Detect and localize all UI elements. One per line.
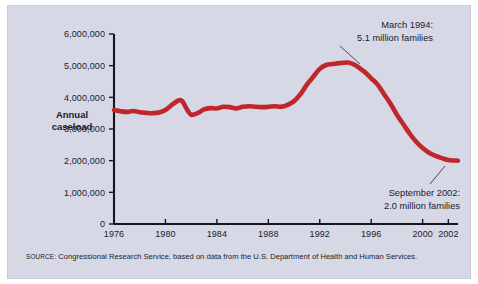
x-tick-label: 1980	[155, 229, 175, 239]
source-label: SOURCE:	[26, 253, 56, 260]
y-axis-title: Annual caseload	[52, 109, 93, 132]
y-axis-title-line1: Annual	[56, 109, 88, 120]
x-tick-label: 1992	[310, 229, 330, 239]
x-tick-label: 1996	[361, 229, 381, 239]
chart-svg: 01,000,0002,000,0003,000,0004,000,0005,0…	[8, 6, 470, 278]
x-tick-label: 2000	[412, 229, 432, 239]
annotation-peak-line1: March 1994:	[381, 20, 433, 30]
x-tick-label: 1984	[207, 229, 227, 239]
y-tick-label: 0	[100, 219, 105, 229]
figure-panel: 01,000,0002,000,0003,000,0004,000,0005,0…	[8, 6, 470, 278]
y-axis-title-line2: caseload	[52, 121, 93, 132]
y-tick-label: 1,000,000	[64, 188, 105, 198]
source-note: SOURCE: Congressional Research Service, …	[26, 252, 464, 263]
x-tick-label: 2002	[438, 229, 458, 239]
x-tick-labels: 19761980198419881992199620002002	[104, 229, 459, 239]
y-tick-label: 2,000,000	[64, 156, 105, 166]
annotation-end-line2: 2.0 million families	[384, 201, 460, 211]
annotation-end: September 2002: 2.0 million families	[384, 166, 460, 211]
source-text: Congressional Research Service, based on…	[56, 252, 417, 261]
y-tick-label: 4,000,000	[64, 93, 105, 103]
x-tick-label: 1976	[104, 229, 124, 239]
caseload-line	[114, 62, 458, 160]
annotation-peak: March 1994: 5.1 million families	[340, 20, 433, 64]
annotation-end-line1: September 2002:	[389, 188, 460, 198]
x-tick-label: 1988	[258, 229, 278, 239]
y-tick-label: 5,000,000	[64, 61, 105, 71]
y-tick-label: 6,000,000	[64, 29, 105, 39]
annotation-end-leader-line	[430, 166, 445, 184]
annotation-peak-line2: 5.1 million families	[357, 33, 433, 43]
chart-plot-area: 01,000,0002,000,0003,000,0004,000,0005,0…	[8, 6, 470, 278]
